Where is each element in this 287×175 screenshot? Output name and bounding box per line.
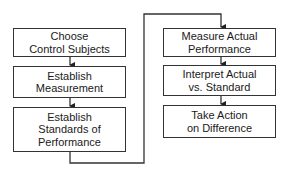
box-take-action: Take Action on Difference	[163, 105, 276, 138]
box-text: Establish	[47, 70, 92, 83]
box-text: vs. Standard	[189, 81, 251, 94]
box-interpret-actual: Interpret Actual vs. Standard	[163, 65, 276, 96]
box-text: Take Action	[191, 109, 247, 122]
box-choose-control-subjects: Choose Control Subjects	[13, 28, 126, 57]
box-text: Measure Actual	[182, 30, 258, 43]
box-text: Control Subjects	[29, 43, 110, 56]
box-establish-measurement: Establish Measurement	[13, 66, 126, 98]
box-text: Interpret Actual	[183, 68, 257, 81]
box-text: Standards of	[38, 123, 100, 136]
box-measure-actual-performance: Measure Actual Performance	[163, 28, 276, 57]
box-text: Performance	[188, 43, 251, 56]
box-text: Establish	[47, 111, 92, 124]
box-establish-standards: Establish Standards of Performance	[13, 107, 126, 152]
box-text: on Difference	[187, 122, 252, 135]
box-text: Measurement	[36, 82, 103, 95]
box-text: Choose	[51, 30, 89, 43]
box-text: Performance	[38, 136, 101, 149]
